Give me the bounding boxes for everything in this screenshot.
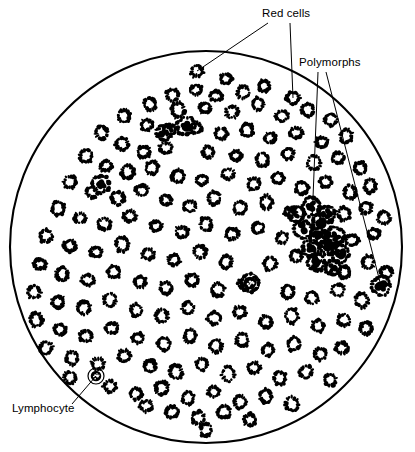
red-cell [181, 199, 197, 213]
red-cell [31, 257, 48, 272]
red-cell [330, 150, 346, 166]
red-cell [158, 280, 174, 297]
red-cell [215, 403, 232, 420]
red-cell [242, 411, 258, 428]
red-cell [317, 174, 334, 189]
red-cell [219, 364, 237, 383]
red-cell [116, 107, 132, 123]
red-cell [274, 230, 289, 246]
red-cell [132, 274, 148, 290]
red-cell [98, 158, 115, 173]
leader-line-red-cells-2 [290, 23, 293, 98]
red-cell [358, 320, 375, 338]
red-cell [64, 349, 80, 367]
red-cell [118, 163, 136, 181]
red-cell [96, 216, 113, 232]
red-cell [257, 78, 272, 95]
red-cell [38, 227, 55, 245]
red-cell [158, 193, 174, 207]
red-cell [329, 282, 346, 298]
red-cell [77, 148, 93, 164]
red-cell [140, 247, 157, 262]
red-cell [75, 299, 92, 317]
label-red-cells: Red cells [262, 7, 310, 19]
red-cell [182, 327, 198, 345]
red-cell [283, 394, 301, 412]
red-cell [310, 317, 326, 334]
red-cell [228, 148, 245, 163]
red-cell [335, 312, 351, 328]
red-cell [223, 104, 240, 120]
label-polymorphs: Polymorphs [299, 56, 361, 68]
red-cell [260, 341, 276, 358]
red-cell [299, 101, 315, 119]
red-cell [246, 360, 263, 376]
red-cell [188, 64, 206, 80]
red-cell [197, 101, 213, 115]
red-cell [61, 174, 78, 191]
red-cell [148, 219, 165, 234]
red-cell [194, 173, 209, 187]
red-cell [251, 95, 266, 113]
red-cell [137, 399, 154, 415]
polymorph-cell [324, 259, 343, 277]
red-cell [312, 346, 328, 363]
red-cell [180, 389, 196, 407]
red-cell [198, 215, 214, 233]
red-cell [139, 117, 155, 132]
label-lymphocyte: Lymphocyte [12, 402, 75, 414]
red-cell [169, 167, 186, 184]
red-cell [303, 290, 320, 306]
red-cell [254, 151, 271, 169]
leader-line-red-cells-1 [197, 23, 268, 71]
red-cell [232, 199, 248, 216]
red-cell [218, 72, 234, 86]
red-cell [218, 253, 234, 271]
red-cell [297, 363, 314, 380]
red-cell [261, 255, 279, 273]
red-cell [259, 192, 275, 211]
red-cell [101, 378, 119, 395]
red-cell [174, 225, 191, 240]
polymorph-cell [90, 174, 111, 196]
red-cell [113, 235, 130, 255]
red-cell [287, 125, 305, 140]
red-cell [232, 304, 249, 320]
red-cell [167, 362, 185, 380]
red-cell [194, 356, 210, 372]
red-cell [322, 112, 339, 128]
red-cell [37, 340, 55, 356]
red-cell [133, 182, 151, 197]
red-cell [272, 369, 289, 387]
red-cell [88, 245, 104, 259]
red-cell [208, 338, 225, 355]
red-cell [144, 159, 161, 177]
red-cell [333, 340, 351, 356]
red-cell [220, 167, 237, 182]
red-cell [109, 189, 127, 207]
red-cell [210, 281, 227, 299]
red-cell [49, 294, 65, 310]
red-cell [239, 121, 256, 138]
red-cell [262, 130, 278, 145]
red-cell [61, 238, 79, 254]
red-cell [208, 88, 225, 102]
red-cell [153, 379, 171, 397]
red-cell [136, 144, 152, 160]
red-cell [163, 403, 180, 420]
blood-smear-figure: Red cellsPolymorphsLymphocyte [0, 0, 415, 452]
micrograph-scene: Red cellsPolymorphsLymphocyte [0, 0, 415, 452]
red-cell [235, 84, 251, 101]
red-cell [184, 272, 200, 289]
red-cell [358, 201, 375, 216]
red-cell [293, 180, 311, 197]
red-cell [352, 159, 368, 176]
polymorph-cell [326, 226, 347, 246]
red-cell [246, 176, 262, 192]
red-cell [93, 124, 110, 142]
red-cell [270, 171, 286, 186]
red-cell [192, 243, 209, 260]
red-cell [166, 252, 183, 268]
red-cell [280, 147, 296, 162]
red-cell [286, 335, 302, 354]
